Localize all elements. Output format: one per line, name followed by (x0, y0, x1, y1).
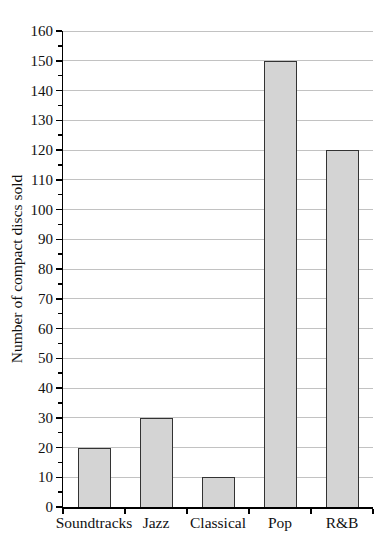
y-tick-label: 160 (5, 23, 53, 39)
y-minor-tick (58, 462, 62, 464)
y-major-tick (56, 239, 62, 241)
y-tick-label: 40 (5, 380, 53, 396)
y-major-tick (56, 120, 62, 122)
x-tick (62, 509, 64, 514)
y-tick-label: 80 (5, 261, 53, 277)
y-minor-tick (58, 105, 62, 107)
y-minor-tick (58, 164, 62, 166)
y-tick-label: 100 (5, 202, 53, 218)
y-minor-tick (58, 313, 62, 315)
bar-pop (264, 61, 297, 507)
y-minor-tick (58, 45, 62, 47)
y-minor-tick (58, 491, 62, 493)
y-minor-tick (58, 432, 62, 434)
y-major-tick (56, 298, 62, 300)
y-minor-tick (58, 194, 62, 196)
y-minor-tick (58, 372, 62, 374)
y-major-tick (56, 417, 62, 419)
y-major-tick (56, 387, 62, 389)
y-tick-label: 120 (5, 142, 53, 158)
y-major-tick (56, 328, 62, 330)
x-tick (248, 509, 250, 514)
y-major-tick (56, 179, 62, 181)
y-tick-label: 130 (5, 112, 53, 128)
y-tick-label: 0 (5, 499, 53, 515)
y-minor-tick (58, 402, 62, 404)
gridline (63, 90, 373, 91)
x-category-label: Jazz (143, 514, 170, 532)
x-category-label: Pop (268, 514, 292, 532)
y-major-tick (56, 149, 62, 151)
y-major-tick (56, 447, 62, 449)
y-tick-label: 50 (5, 350, 53, 366)
gridline (63, 31, 373, 32)
y-major-tick (56, 60, 62, 62)
y-major-tick (56, 90, 62, 92)
bar-jazz (140, 418, 173, 507)
x-category-label: Soundtracks (56, 514, 133, 532)
y-major-tick (56, 268, 62, 270)
y-tick-label: 70 (5, 291, 53, 307)
x-axis-line (62, 507, 374, 509)
x-tick (310, 509, 312, 514)
y-minor-tick (58, 283, 62, 285)
y-tick-label: 10 (5, 469, 53, 485)
bar-rb (326, 150, 359, 507)
y-tick-label: 30 (5, 410, 53, 426)
gridline (63, 120, 373, 121)
y-minor-tick (58, 253, 62, 255)
y-tick-label: 140 (5, 83, 53, 99)
y-major-tick (56, 358, 62, 360)
y-minor-tick (58, 224, 62, 226)
y-axis-line (62, 31, 64, 508)
x-tick (124, 509, 126, 514)
y-tick-label: 90 (5, 231, 53, 247)
x-tick (186, 509, 188, 514)
y-tick-label: 20 (5, 440, 53, 456)
gridline (63, 60, 373, 61)
y-minor-tick (58, 134, 62, 136)
x-category-label: Classical (190, 514, 246, 532)
bar-classical (202, 477, 235, 507)
x-tick (372, 509, 374, 514)
y-major-tick (56, 209, 62, 211)
bar-chart: Number of compact discs sold 01020304050… (0, 0, 389, 544)
y-major-tick (56, 477, 62, 479)
y-major-tick (56, 506, 62, 508)
bar-soundtracks (78, 448, 111, 508)
y-tick-label: 150 (5, 53, 53, 69)
y-tick-label: 110 (5, 172, 53, 188)
y-minor-tick (58, 343, 62, 345)
y-tick-label: 60 (5, 321, 53, 337)
x-category-label: R&B (326, 514, 359, 532)
plot-area: 0102030405060708090100110120130140150160… (63, 31, 373, 507)
y-minor-tick (58, 75, 62, 77)
y-major-tick (56, 30, 62, 32)
